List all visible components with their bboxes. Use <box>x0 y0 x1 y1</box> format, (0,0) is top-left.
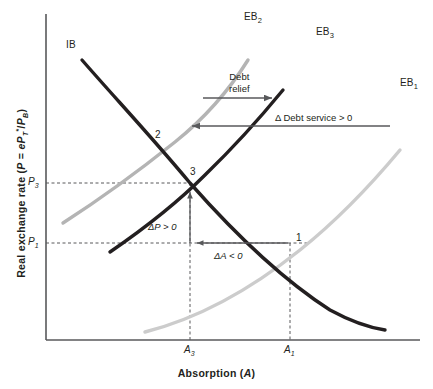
xtick-label-a3: A3 <box>184 345 195 357</box>
y-axis-title: Real exchange rate (P = ePT*/PB) <box>15 93 30 293</box>
ytick-label-p3: P3 <box>28 177 39 189</box>
economics-chart-figure: IB EB2 EB3 EB1 2 3 1 P3 P1 A3 A1 Debt re… <box>0 0 433 389</box>
curve-label-eb1: EB1 <box>400 78 418 91</box>
curve-label-eb3: EB3 <box>316 27 334 40</box>
curve-label-eb2: EB2 <box>244 12 262 25</box>
chart-plot-area <box>0 0 433 389</box>
curve-label-ib: IB <box>66 40 76 50</box>
xtick-label-a1: A1 <box>284 345 295 357</box>
debt-relief-line2: relief <box>229 84 250 94</box>
debt-relief-line1: Debt <box>229 72 250 82</box>
point-label-2: 2 <box>155 130 161 140</box>
annotation-debt-service: Δ Debt service > 0 <box>275 113 352 123</box>
x-axis-title: Absorption (A) <box>0 368 433 379</box>
curve-ib <box>82 60 385 330</box>
point-label-1: 1 <box>296 233 302 243</box>
annotation-delta-a: ΔA < 0 <box>214 251 242 261</box>
ytick-label-p1: P1 <box>28 237 39 249</box>
annotation-delta-p: ΔP > 0 <box>148 222 176 232</box>
point-label-3: 3 <box>190 167 196 177</box>
annotation-debt-relief: Debt relief <box>229 72 250 93</box>
